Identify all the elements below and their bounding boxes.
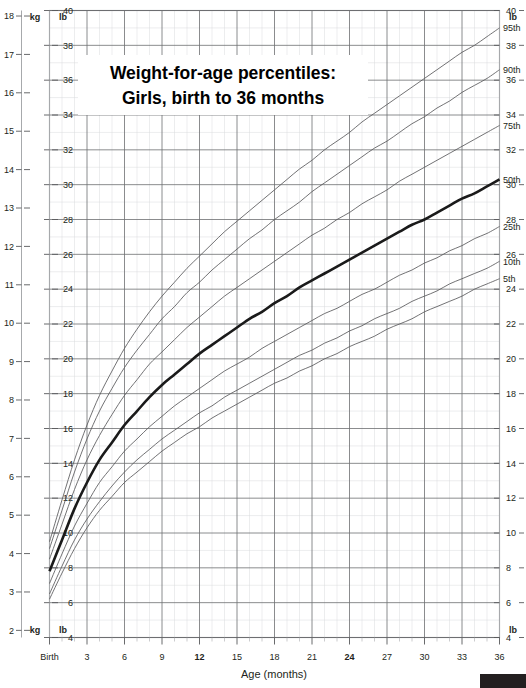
x-tick-label: 12 <box>194 652 204 662</box>
lb-unit-bottom-left: lb <box>59 625 68 635</box>
kg-tick-label: 3 <box>9 587 14 597</box>
kg-tick-label: 4 <box>9 549 14 559</box>
lb-right-tick-label: 36 <box>506 75 516 85</box>
kg-unit-top: kg <box>30 12 41 22</box>
lb-right-tick-label: 10 <box>506 528 516 538</box>
x-axis-label: Age (months) <box>241 668 307 680</box>
lb-right-tick-label: 32 <box>506 145 516 155</box>
x-tick-label: 9 <box>159 652 164 662</box>
lb-left-tick-label: 32 <box>63 145 73 155</box>
kg-unit-bottom: kg <box>30 625 41 635</box>
weight-for-age-chart: 46810121416182022242628303234363840 4681… <box>0 0 526 688</box>
x-tick-label: 36 <box>494 652 504 662</box>
kg-tick-label: 17 <box>4 50 14 60</box>
cdc-logo-text: CDC <box>490 674 518 688</box>
lb-right-tick-label: 12 <box>506 493 516 503</box>
lb-left-tick-label: 38 <box>63 41 73 51</box>
x-tick-label: 24 <box>344 652 354 662</box>
lb-right-tick-label: 24 <box>506 284 516 294</box>
x-tick-label: 21 <box>307 652 317 662</box>
lb-left-tick-label: 26 <box>63 250 73 260</box>
lb-left-tick-label: 4 <box>68 633 73 643</box>
lb-left-tick-label: 18 <box>63 389 73 399</box>
kg-tick-label: 14 <box>4 165 14 175</box>
kg-tick-label: 8 <box>9 395 14 405</box>
kg-tick-label: 10 <box>4 318 14 328</box>
lb-left-tick-label: 24 <box>63 284 73 294</box>
lb-right-tick-label: 38 <box>506 41 516 51</box>
kg-tick-label: 13 <box>4 203 14 213</box>
cdc-logo: CDC <box>480 673 526 688</box>
lb-left-tick-label: 20 <box>63 354 73 364</box>
lb-right-tick-label: 34 <box>506 110 516 120</box>
lb-left-tick-label: 14 <box>63 459 73 469</box>
percentile-label-75th: 75th <box>503 121 521 131</box>
kg-tick-label: 5 <box>9 510 14 520</box>
lb-unit-top-right: lb <box>509 12 518 22</box>
kg-tick-label: 9 <box>9 357 14 367</box>
x-tick-label: 33 <box>457 652 467 662</box>
kg-tick-label: 18 <box>4 11 14 21</box>
lb-right-tick-label: 20 <box>506 354 516 364</box>
percentile-label-50th: 50th <box>503 175 521 185</box>
kg-tick-label: 15 <box>4 126 14 136</box>
lb-left-tick-label: 28 <box>63 215 73 225</box>
kg-tick-label: 2 <box>9 626 14 636</box>
x-tick-label: 18 <box>269 652 279 662</box>
chart-title-block: Weight-for-age percentiles: Girls, birth… <box>78 55 368 115</box>
kg-tick-label: 7 <box>9 434 14 444</box>
kg-tick-label: 12 <box>4 242 14 252</box>
lb-left-tick-label: 22 <box>63 319 73 329</box>
lb-left-tick-label: 34 <box>63 110 73 120</box>
lb-left-tick-label: 30 <box>63 180 73 190</box>
kg-tick-label: 16 <box>4 88 14 98</box>
percentile-label-95th: 95th <box>503 23 521 33</box>
lb-right-tick-label: 8 <box>506 563 511 573</box>
x-tick-label: 30 <box>419 652 429 662</box>
kg-tick-label: 11 <box>5 280 14 290</box>
lb-unit-bottom-right: lb <box>509 625 518 635</box>
lb-left-tick-label: 36 <box>63 75 73 85</box>
lb-right-tick-label: 6 <box>506 598 511 608</box>
lb-left-tick-label: 6 <box>68 598 73 608</box>
x-tick-label: 15 <box>232 652 242 662</box>
percentile-label-5th: 5th <box>503 274 516 284</box>
growth-chart-page: 46810121416182022242628303234363840 4681… <box>0 0 526 688</box>
x-tick-label: 3 <box>84 652 89 662</box>
lb-left-tick-label: 16 <box>63 424 73 434</box>
x-tick-label: 27 <box>382 652 392 662</box>
percentile-label-90th: 90th <box>503 65 521 75</box>
percentile-label-10th: 10th <box>503 257 521 267</box>
page-title: Weight-for-age percentiles: <box>110 63 336 83</box>
lb-right-tick-label: 22 <box>506 319 516 329</box>
x-tick-label: 6 <box>122 652 127 662</box>
lb-unit-top-left: lb <box>59 12 68 22</box>
lb-right-tick-label: 14 <box>506 459 516 469</box>
kg-tick-label: 6 <box>9 472 14 482</box>
lb-right-tick-label: 16 <box>506 424 516 434</box>
lb-left-tick-label: 8 <box>68 563 73 573</box>
page-subtitle: Girls, birth to 36 months <box>122 88 325 108</box>
lb-right-tick-label: 18 <box>506 389 516 399</box>
x-tick-label: Birth <box>40 652 59 662</box>
percentile-label-25th: 25th <box>503 222 521 232</box>
